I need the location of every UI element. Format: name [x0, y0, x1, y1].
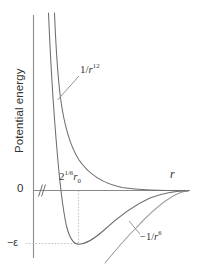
equilibrium-exponent: 1/6 — [65, 169, 74, 176]
repulsive-exponent: 12 — [93, 62, 100, 69]
repulsive-term-label: 1/r12 — [80, 63, 100, 75]
repulsive-numerator: 1/ — [80, 63, 89, 75]
well-depth-label: −ε — [7, 237, 18, 248]
y-axis-title: Potential energy — [14, 61, 26, 161]
x-axis-title-r: r — [170, 168, 175, 180]
leader-line-attractive — [129, 221, 140, 234]
attractive-exponent: 6 — [158, 229, 161, 236]
attractive-numerator: −1/ — [140, 231, 154, 242]
leader-line-repulsive — [58, 76, 80, 100]
curve-repulsive-r12 — [55, 13, 189, 191]
equilibrium-subscript: 0 — [78, 177, 81, 184]
lennard-jones-potential-figure: Potential energy 0 r −ε 21/6r0 1/r12 −1/… — [0, 0, 199, 268]
attractive-term-label: −1/r6 — [140, 230, 161, 242]
axis-lines — [34, 15, 191, 258]
y-axis-zero-tick-label: 0 — [17, 183, 23, 195]
plot-canvas — [0, 0, 199, 268]
curve-attractive-r6 — [105, 191, 189, 263]
equilibrium-distance-label: 21/6r0 — [59, 170, 81, 185]
curve-lennard-jones-total — [49, 13, 189, 244]
well-depth-epsilon-symbol: ε — [13, 236, 18, 248]
